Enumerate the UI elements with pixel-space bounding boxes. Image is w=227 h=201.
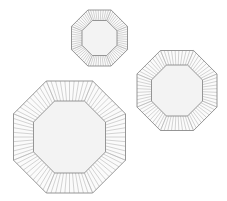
large-plate [14, 81, 126, 193]
small-plate [72, 10, 128, 66]
medium-plate [137, 51, 217, 131]
plates-illustration [0, 0, 227, 201]
